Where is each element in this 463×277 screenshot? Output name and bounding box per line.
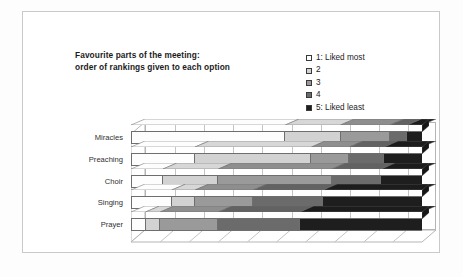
bar-segment [253, 196, 323, 209]
legend-item: 3 [306, 77, 365, 89]
legend-item: 1: Liked most [306, 52, 365, 64]
bar-front-face [131, 131, 422, 144]
chart-legend: 1: Liked most2345: Liked least [306, 52, 365, 114]
legend-label: 4 [316, 91, 321, 99]
floor-gridline [393, 230, 407, 242]
category-label: Choir [19, 178, 123, 186]
bar-segment [172, 196, 195, 209]
floor-gridline [306, 230, 320, 242]
bar-stack [131, 131, 422, 144]
legend-label: 1: Liked most [316, 54, 365, 62]
bar-segment [323, 196, 422, 209]
legend-label: 5: Liked least [316, 104, 364, 112]
bar-segment [341, 131, 390, 144]
bar-segment [160, 218, 218, 231]
bar-segment [131, 175, 163, 188]
bar-segment [218, 218, 299, 231]
bar-segment [285, 131, 340, 144]
legend-item: 2 [306, 64, 365, 76]
floor-gridline [335, 230, 349, 242]
bar-segment [407, 131, 422, 144]
bar-segment [381, 175, 422, 188]
bar-segment [300, 218, 422, 231]
bar-segment [131, 218, 146, 231]
legend-swatch-icon [306, 105, 312, 111]
bar-segment [349, 153, 384, 166]
legend-swatch-icon [306, 68, 312, 74]
floor-surface [131, 230, 436, 242]
floor-gridline [247, 230, 261, 242]
chart-title-line-1: Favourite parts of the meeting: [75, 50, 310, 62]
bar-segment [131, 131, 285, 144]
chart-title: Favourite parts of the meeting: order of… [75, 50, 310, 73]
bar-segment [131, 196, 172, 209]
floor-gridline [364, 230, 378, 242]
category-label: Singing [19, 199, 123, 207]
bar-segment [218, 175, 331, 188]
category-label: Prayer [19, 221, 123, 229]
floor-gridline [218, 230, 232, 242]
floor-gridline [189, 230, 203, 242]
legend-label: 2 [316, 66, 321, 74]
legend-swatch-icon [306, 92, 312, 98]
bar-segment [163, 175, 218, 188]
bar-front-face [131, 175, 422, 188]
bar-front-face [131, 218, 422, 231]
bar-segment [390, 131, 407, 144]
bar-segment [195, 196, 253, 209]
chart-page: Favourite parts of the meeting: order of… [0, 0, 463, 277]
floor-gridline [160, 230, 174, 242]
bar-segment [195, 153, 311, 166]
bar-segment [332, 175, 381, 188]
category-label: Miracles [19, 134, 123, 142]
bar-segment [311, 153, 349, 166]
chart-title-line-2: order of rankings given to each option [75, 62, 310, 74]
bar-stack [131, 196, 422, 209]
legend-swatch-icon [306, 55, 312, 61]
bar-stack [131, 153, 422, 166]
legend-label: 3 [316, 79, 321, 87]
bar-segment [146, 218, 161, 231]
legend-item: 4 [306, 89, 365, 101]
bar-front-face [131, 196, 422, 209]
legend-item: 5: Liked least [306, 102, 365, 114]
floor-gridline [277, 230, 291, 242]
bar-stack [131, 218, 422, 231]
chart-panel: Favourite parts of the meeting: order of… [22, 11, 440, 253]
legend-swatch-icon [306, 80, 312, 86]
bar-front-face [131, 153, 422, 166]
bar-segment [131, 153, 195, 166]
category-label: Preaching [19, 156, 123, 164]
bar-stack [131, 175, 422, 188]
bar-segment [384, 153, 422, 166]
plot-area: MiraclesPreachingChoirSingingPrayer [131, 122, 436, 254]
